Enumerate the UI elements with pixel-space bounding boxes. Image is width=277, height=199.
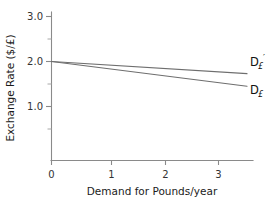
- curve-label-shifted: D £ ′: [250, 53, 265, 71]
- y-axis-title: Exchange Rate ($/£): [4, 34, 16, 141]
- chart-figure: 3.0 2.0 1.0 0 1 2 3 D £ ′ D £ Demand for…: [0, 0, 277, 199]
- curve-label-original-subscript: £: [258, 90, 264, 99]
- x-tick-label-0: 0: [48, 169, 54, 180]
- y-tick-label-3: 3.0: [27, 11, 43, 22]
- y-tick-label-1: 1.0: [27, 101, 43, 112]
- demand-curve-shifted: [52, 62, 248, 74]
- y-tick-label-2: 2.0: [27, 56, 43, 67]
- x-tick-label-2: 2: [162, 169, 168, 180]
- x-tick-label-3: 3: [215, 169, 221, 180]
- x-tick-label-1: 1: [108, 169, 114, 180]
- exchange-rate-demand-chart: 3.0 2.0 1.0 0 1 2 3 D £ ′ D £ Demand for…: [0, 0, 277, 199]
- curve-label-shifted-subscript: £: [258, 62, 264, 71]
- demand-curve-original: [52, 62, 248, 87]
- curve-label-shifted-prime: ′: [263, 53, 265, 63]
- x-axis-title: Demand for Pounds/year: [87, 185, 218, 197]
- curve-label-original: D £: [250, 83, 264, 99]
